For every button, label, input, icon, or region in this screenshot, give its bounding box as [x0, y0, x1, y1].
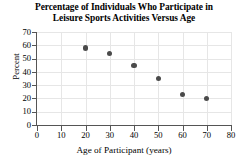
- y-axis-tick: [32, 98, 37, 99]
- y-axis-tick-label: 20: [9, 94, 31, 103]
- y-axis-tick: [32, 72, 37, 73]
- x-axis-title: Age of Participant (years): [0, 145, 248, 155]
- chart-title: Percentage of Individuals Who Participat…: [10, 2, 238, 24]
- x-axis-tick-label: 30: [100, 131, 120, 140]
- gridline-vertical: [183, 32, 184, 125]
- data-point: [156, 76, 161, 81]
- data-point: [204, 96, 209, 101]
- y-axis-tick-label: 30: [9, 81, 31, 90]
- plot-area: [37, 32, 231, 125]
- y-axis-tick-label: 60: [9, 41, 31, 50]
- gridline-vertical: [61, 32, 62, 125]
- x-axis-tick-label: 20: [76, 131, 96, 140]
- data-point: [107, 51, 112, 56]
- y-axis-tick-label: 0: [9, 121, 31, 130]
- y-axis-tick: [32, 45, 37, 46]
- x-axis-tick-label: 80: [221, 131, 241, 140]
- chart-figure: Percentage of Individuals Who Participat…: [0, 0, 248, 168]
- y-axis-tick-label: 50: [9, 54, 31, 63]
- gridline-vertical: [207, 32, 208, 125]
- data-point: [83, 45, 88, 50]
- x-axis-tick-label: 0: [27, 131, 47, 140]
- y-axis-tick-label: 10: [9, 107, 31, 116]
- x-axis-tick-label: 60: [173, 131, 193, 140]
- data-point: [180, 92, 185, 97]
- x-axis-tick-label: 40: [124, 131, 144, 140]
- chart-title-line-2: Leisure Sports Activities Versus Age: [10, 13, 238, 24]
- y-axis-tick: [32, 32, 37, 33]
- y-axis-tick: [32, 112, 37, 113]
- gridline-vertical: [231, 32, 232, 125]
- x-axis-tick-label: 70: [197, 131, 217, 140]
- chart-title-line-1: Percentage of Individuals Who Participat…: [10, 2, 238, 13]
- data-point: [131, 63, 136, 68]
- x-axis-tick-label: 10: [51, 131, 71, 140]
- gridline-vertical: [110, 32, 111, 125]
- y-axis-tick-label: 70: [9, 28, 31, 37]
- y-axis-tick: [32, 59, 37, 60]
- gridline-vertical: [134, 32, 135, 125]
- y-axis-tick: [32, 85, 37, 86]
- x-axis-tick-label: 50: [148, 131, 168, 140]
- y-axis-tick-label: 40: [9, 68, 31, 77]
